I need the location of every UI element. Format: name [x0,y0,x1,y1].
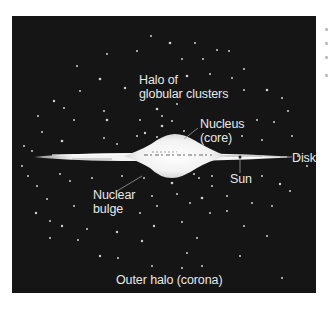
label-bulge-line1: Nuclear [93,188,135,202]
sun-marker [239,156,242,159]
label-nuclear-bulge: Nuclear bulge [93,188,135,216]
label-halo-globular-clusters: Halo of globular clusters [139,73,228,101]
label-nucleus-line1: Nucleus [200,117,244,131]
label-outer-halo-corona: Outer halo (corona) [116,273,223,287]
label-nucleus-line2: (core) [200,131,244,145]
label-sun: Sun [230,172,252,186]
label-disk: Disk [292,151,316,165]
label-halo-line2: globular clusters [139,87,228,101]
label-halo-line1: Halo of [139,73,228,87]
galaxy-illustration [12,16,316,293]
label-bulge-line2: bulge [93,202,135,216]
label-nucleus-core: Nucleus (core) [200,117,244,145]
galaxy-diagram-panel: Halo of globular clusters Nucleus (core)… [12,16,316,293]
margin-marks [323,28,333,88]
